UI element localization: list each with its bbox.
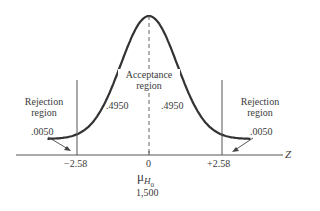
acceptance-right-prob: .4950	[161, 100, 184, 111]
right-tail-arrow	[235, 138, 253, 150]
mean-value: 1,500	[136, 187, 159, 198]
acceptance-left-prob: .4950	[106, 100, 129, 111]
rejection-region-left-label: Rejection region	[20, 96, 68, 118]
z-axis-label: Z	[285, 149, 291, 160]
tick-label-pos-2-58: +2.58	[207, 158, 230, 169]
tick-label-zero: 0	[146, 158, 151, 169]
acceptance-region-label: Acceptance region	[118, 69, 180, 91]
rejection-region-right-label: Rejection region	[236, 96, 284, 118]
rejection-left-prob: .0050	[31, 126, 54, 137]
mean-label: μH0	[137, 170, 154, 186]
tick-label-neg-2-58: −2.58	[64, 158, 87, 169]
rejection-right-prob: .0050	[250, 126, 273, 137]
